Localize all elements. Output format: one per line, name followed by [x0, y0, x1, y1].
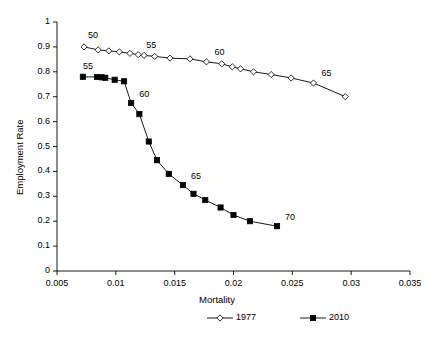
- series-annotation-2010-65: 65: [191, 171, 201, 181]
- data-point-marker: [135, 52, 141, 58]
- data-point-marker: [129, 100, 134, 105]
- x-tick-label: 0.01: [90, 278, 142, 288]
- data-point-marker: [80, 74, 85, 79]
- series-annotation-2010-70: 70: [285, 212, 295, 222]
- series-annotation-1977-65: 65: [322, 68, 332, 78]
- x-tick-label: 0.02: [208, 278, 260, 288]
- data-point-marker: [141, 52, 147, 58]
- data-point-marker: [146, 139, 151, 144]
- data-point-marker: [127, 50, 133, 56]
- data-point-marker: [137, 112, 142, 117]
- data-point-marker: [121, 79, 126, 84]
- data-point-marker: [187, 56, 193, 62]
- data-point-marker: [103, 75, 108, 80]
- data-point-marker: [247, 219, 252, 224]
- y-tick-label: 0.6: [0, 116, 50, 126]
- data-point-marker: [191, 191, 196, 196]
- series-annotation-1977-60: 60: [214, 47, 224, 57]
- employment-mortality-chart: 00.10.20.30.40.50.60.70.80.910.0050.010.…: [0, 0, 434, 343]
- data-point-marker: [152, 53, 158, 59]
- data-point-marker: [203, 197, 208, 202]
- y-tick-label: 0.1: [0, 240, 50, 250]
- x-tick-label: 0.015: [149, 278, 201, 288]
- data-point-marker: [81, 44, 87, 50]
- legend-label-2010: 2010: [329, 312, 349, 322]
- data-point-marker: [219, 61, 225, 67]
- data-point-marker: [166, 171, 171, 176]
- series-annotation-2010-55: 55: [83, 61, 93, 71]
- x-tick-label: 0.035: [384, 278, 434, 288]
- data-point-marker: [237, 66, 243, 72]
- data-point-marker: [203, 59, 209, 65]
- data-point-marker: [116, 49, 122, 55]
- data-point-marker: [218, 205, 223, 210]
- series-annotation-2010-60: 60: [139, 89, 149, 99]
- y-tick-label: 0.4: [0, 165, 50, 175]
- data-point-marker: [310, 315, 315, 320]
- data-point-marker: [154, 158, 159, 163]
- y-tick-label: 0.8: [0, 66, 50, 76]
- data-point-marker: [268, 71, 274, 77]
- series-line-2010: [83, 77, 277, 226]
- x-axis-title: Mortality: [0, 294, 434, 305]
- y-axis-title: Employment Rate: [14, 119, 25, 195]
- data-point-marker: [342, 94, 348, 100]
- legend-label-1977: 1977: [236, 312, 256, 322]
- data-point-marker: [310, 80, 316, 86]
- series-annotation-1977-50: 50: [88, 30, 98, 40]
- data-point-marker: [167, 55, 173, 61]
- y-tick-label: 0.5: [0, 141, 50, 151]
- data-point-marker: [231, 212, 236, 217]
- y-tick-label: 0.9: [0, 41, 50, 51]
- y-tick-label: 0.3: [0, 190, 50, 200]
- y-tick-label: 0.7: [0, 91, 50, 101]
- data-point-marker: [180, 182, 185, 187]
- data-point-marker: [106, 48, 112, 54]
- data-point-marker: [112, 77, 117, 82]
- y-tick-label: 1: [0, 16, 50, 26]
- series-annotation-1977-55: 55: [146, 40, 156, 50]
- data-point-marker: [217, 315, 223, 321]
- data-point-marker: [288, 75, 294, 81]
- data-point-marker: [274, 224, 279, 229]
- y-tick-label: 0.2: [0, 215, 50, 225]
- x-tick-label: 0.005: [31, 278, 83, 288]
- x-tick-label: 0.03: [325, 278, 377, 288]
- y-tick-label: 0: [0, 265, 50, 275]
- data-point-marker: [95, 47, 101, 53]
- x-tick-label: 0.025: [266, 278, 318, 288]
- data-point-marker: [229, 64, 235, 70]
- data-point-marker: [250, 69, 256, 75]
